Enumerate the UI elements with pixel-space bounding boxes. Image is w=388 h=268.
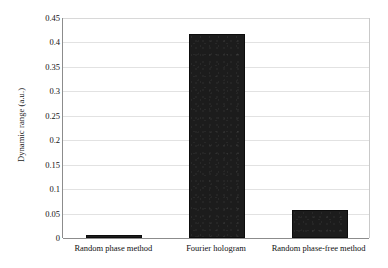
- axis-baseline: [63, 238, 369, 239]
- x-tick-label: Random phase-free method: [272, 242, 366, 254]
- y-tick-label: 0.05: [30, 209, 60, 218]
- y-tick-label: 0.2: [30, 136, 60, 145]
- y-tick-label: 0.45: [30, 14, 60, 23]
- bar: [292, 210, 348, 238]
- bar: [189, 34, 245, 238]
- y-tick-label: 0.4: [30, 38, 60, 47]
- y-axis-title: Dynamic range (a.u.): [16, 70, 30, 180]
- bar: [86, 235, 142, 238]
- y-tick-label: 0.35: [30, 62, 60, 71]
- y-tick-label: 0: [30, 234, 60, 243]
- y-tick-label: 0.15: [30, 160, 60, 169]
- y-tick-label: 0.3: [30, 87, 60, 96]
- plot-area: [62, 18, 370, 238]
- y-axis-tick-labels: 00.050.10.150.20.250.30.350.40.45: [30, 0, 60, 268]
- x-tick-label: Fourier hologram: [186, 242, 246, 254]
- x-tick-label: Random phase method: [74, 242, 152, 254]
- bar-chart-figure: Dynamic range (a.u.) 00.050.10.150.20.25…: [0, 0, 388, 268]
- y-tick-label: 0.1: [30, 185, 60, 194]
- y-tick-label: 0.25: [30, 111, 60, 120]
- bar-series: [63, 18, 369, 238]
- x-axis-category-labels: Random phase methodFourier hologramRando…: [62, 242, 370, 262]
